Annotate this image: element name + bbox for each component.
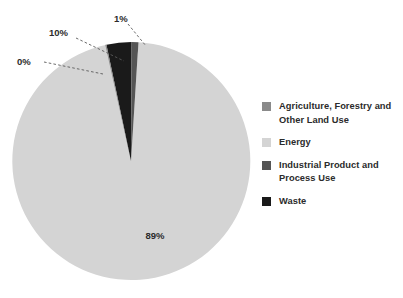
label-ten-percent: 10% [49,27,69,38]
legend-item-waste[interactable]: Waste [262,195,403,209]
label-zero-percent: 0% [17,56,31,67]
legend-label-industrial: Industrial Product and Process Use [279,159,403,186]
pie-chart: 0% 10% 1% 89% Agriculture, Forestry and … [0,0,403,298]
legend-swatch-waste-icon [262,197,271,206]
legend-swatch-industrial-icon [262,161,271,170]
legend-label-agriculture: Agriculture, Forestry and Other Land Use [279,100,403,127]
legend-swatch-agriculture-icon [262,102,271,111]
legend-item-energy[interactable]: Energy [262,136,403,150]
label-one-percent: 1% [114,13,128,24]
legend-label-energy: Energy [279,136,311,150]
legend-item-agriculture[interactable]: Agriculture, Forestry and Other Land Use [262,100,403,127]
legend-item-industrial[interactable]: Industrial Product and Process Use [262,159,403,186]
legend-label-waste: Waste [279,195,306,209]
label-eightynine-percent: 89% [145,230,165,241]
legend-swatch-energy-icon [262,138,271,147]
chart-legend: Agriculture, Forestry and Other Land Use… [262,100,403,217]
